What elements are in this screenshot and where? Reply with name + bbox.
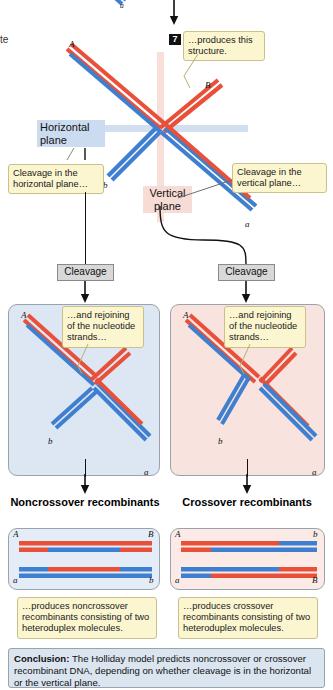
holliday-label-A: A	[69, 40, 75, 49]
crossover-result-label-a: a	[175, 576, 180, 585]
cleavage-horizontal-note: Cleavage in the horizontal plane…	[8, 164, 104, 194]
crossover-result-label-A: A	[175, 530, 181, 539]
cleavage-vertical-note-leader	[178, 178, 236, 204]
noncrossover-result-panel	[8, 528, 160, 590]
rejoin-note-left: …and rejoining of the nucleotide strands…	[62, 306, 144, 348]
noncrossover-result-label-B: B	[148, 530, 154, 539]
crossover-result-label-b: b	[313, 530, 318, 539]
page-edge-text-fragment: te	[0, 34, 8, 45]
conclusion-box: Conclusion: The Holliday model predicts …	[8, 648, 325, 688]
crossover-label-a: a	[312, 468, 317, 477]
flow-arrow-top	[168, 0, 182, 28]
crossover-label-A: A	[183, 311, 189, 320]
incoming-strand-label-a: a	[120, 2, 124, 10]
flow-arrow-right-2	[241, 474, 255, 496]
noncrossover-label-a: a	[144, 468, 149, 477]
crossover-result-note: …produces crossover recombinants consist…	[178, 597, 318, 639]
flow-arrow-left-2	[79, 474, 93, 496]
flow-arrow-left-1	[79, 281, 93, 305]
noncrossover-label-b: b	[48, 437, 53, 446]
branch-connector-left	[85, 192, 86, 264]
crossover-result-label-B: B	[312, 576, 318, 585]
noncrossover-label-A: A	[21, 311, 27, 320]
noncrossover-result-label-a: a	[13, 576, 18, 585]
crossover-duplexes	[181, 541, 317, 583]
cleavage-process-left: Cleavage	[57, 264, 114, 281]
crossover-result-panel	[170, 528, 325, 590]
noncrossover-result-label-A: A	[13, 530, 19, 539]
rejoin-note-right-leader	[232, 344, 258, 376]
crossover-heading: Crossover recombinants	[172, 496, 322, 509]
cleavage-vertical-note: Cleavage in the vertical plane…	[232, 163, 327, 193]
noncrossover-heading: Noncrossover recombinants	[10, 496, 160, 509]
holliday-label-B: B	[205, 81, 211, 90]
conclusion-prefix: Conclusion:	[14, 653, 69, 664]
noncrossover-duplexes	[19, 541, 152, 583]
noncrossover-result-note: …produces noncrossover recombinants cons…	[17, 597, 157, 639]
rejoin-note-left-leader	[70, 344, 96, 376]
branch-connector-right	[150, 206, 265, 266]
rejoin-note-right: …and rejoining of the nucleotide strands…	[224, 306, 306, 348]
crossover-label-b: b	[218, 437, 223, 446]
cleavage-process-right: Cleavage	[218, 264, 275, 281]
flow-arrow-right-1	[240, 281, 254, 305]
noncrossover-result-label-b: b	[149, 576, 154, 585]
horizontal-plane-label: Horizontal plane	[37, 120, 105, 147]
